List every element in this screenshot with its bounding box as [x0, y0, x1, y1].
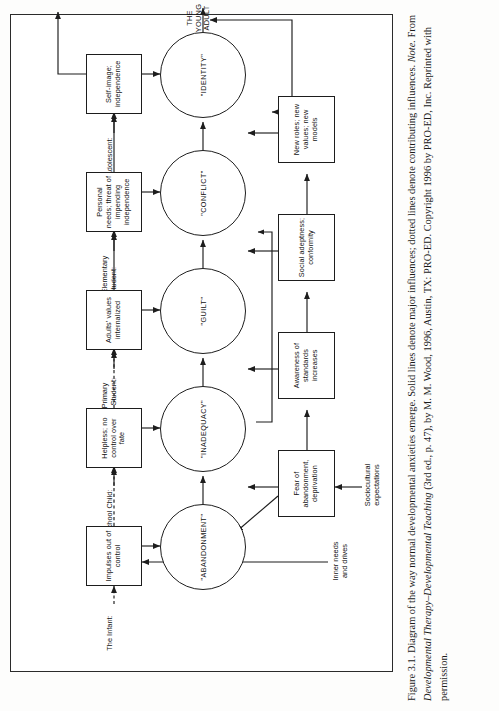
- figure-rotated-container: The Infant: The Preschool Child: The Pri…: [10, 12, 395, 672]
- stage-header-infant: The Infant:: [106, 604, 115, 662]
- anxiety-circle-conflict[interactable]: "CONFLICT": [160, 150, 246, 236]
- anxiety-circle-abandonment[interactable]: "ABANDONMENT": [160, 504, 246, 590]
- top-box-impulses[interactable]: Impulses out of control: [86, 526, 142, 586]
- bottom-box-social-adeptness[interactable]: Social adeptness; conformity: [278, 214, 335, 281]
- top-box-self-image[interactable]: Self-image; independence: [86, 54, 142, 114]
- caption-legend-text: Solid lines denote major influences; dot…: [406, 62, 417, 396]
- anxiety-circle-guilt[interactable]: "GUILT": [160, 268, 246, 354]
- input-label-sociocultural: Sociocultural expectations: [364, 452, 382, 518]
- caption-from: From: [406, 15, 417, 38]
- scanned-page: The Infant: The Preschool Child: The Pri…: [0, 0, 499, 711]
- top-box-adults-values[interactable]: Adults' values internalized: [86, 290, 142, 350]
- caption-source-title: Developmental Therapy–Developmental Teac…: [422, 490, 433, 701]
- figure-caption: Figure 3.1. Diagram of the way normal de…: [404, 11, 451, 701]
- bottom-box-fear-abandonment[interactable]: Fear of abandonment, deprivation: [278, 450, 335, 517]
- top-box-helpless[interactable]: Helpless; no control over fate: [86, 408, 142, 468]
- caption-note-label: Note.: [406, 37, 417, 62]
- caption-sentence: Diagram of the way normal developmental …: [406, 397, 417, 653]
- anxiety-circle-identity[interactable]: "IDENTITY": [160, 32, 246, 118]
- anxiety-circle-inadequacy[interactable]: "INADEQUACY": [160, 386, 246, 472]
- outcome-young-adult: THE YOUNG ADULT: [186, 0, 212, 40]
- figure-number: Figure 3.1.: [406, 653, 417, 701]
- developmental-anxiety-diagram: The Infant: The Preschool Child: The Pri…: [10, 14, 393, 672]
- bottom-box-awareness-standards[interactable]: Awareness of standards increases: [278, 332, 335, 399]
- bottom-box-new-roles[interactable]: New roles; new values; new models: [278, 96, 335, 163]
- top-box-personal-needs[interactable]: Personal needs; threat of impending inde…: [86, 172, 142, 232]
- input-label-inner-needs: Inner needs and drives: [332, 530, 350, 592]
- figure-caption-rotated-container: Figure 3.1. Diagram of the way normal de…: [404, 11, 490, 701]
